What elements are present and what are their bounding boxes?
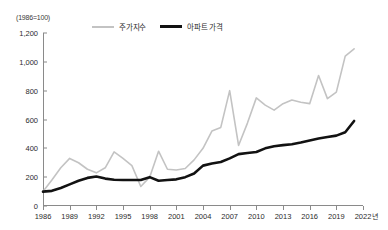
y-tick-label: 0 [0, 202, 43, 211]
x-tick-mark [70, 206, 71, 210]
x-tick-label: 1992 [88, 212, 105, 221]
x-tick-label: 2001 [168, 212, 185, 221]
y-tick-label: 800 [0, 86, 43, 95]
x-tick-mark [203, 206, 204, 210]
x-tick-label: 2013 [275, 212, 292, 221]
x-tick-mark [256, 206, 257, 210]
x-tick-mark [310, 206, 311, 210]
legend-line-swatch-gray-icon [92, 26, 114, 28]
x-tick-label: 1989 [61, 212, 78, 221]
x-tick-label: 2010 [248, 212, 265, 221]
x-tick-mark [123, 206, 124, 210]
legend-item-apartment-price: 아파트 가격 [160, 21, 223, 32]
x-axis-unit-label: 년 [372, 211, 378, 221]
chart-legend: 주가지수 아파트 가격 [92, 21, 223, 32]
x-tick-label: 1986 [35, 212, 52, 221]
plot-area [43, 33, 363, 206]
y-tick-mark [43, 119, 47, 120]
y-tick-mark [43, 61, 47, 62]
x-tick-mark [43, 206, 44, 210]
y-tick-label: 400 [0, 144, 43, 153]
y-tick-label: 1,000 [0, 57, 43, 66]
y-tick-label: 200 [0, 173, 43, 182]
chart-figure: (1986=100) 주가지수 아파트 가격 02004006008001,00… [0, 0, 388, 230]
x-tick-mark [336, 206, 337, 210]
x-tick-mark [176, 206, 177, 210]
y-tick-mark [43, 177, 47, 178]
legend-line-swatch-black-icon [160, 25, 182, 28]
unit-note: (1986=100) [16, 14, 50, 21]
x-tick-mark [150, 206, 151, 210]
x-tick-label: 2007 [221, 212, 238, 221]
x-tick-label: 2022 [355, 212, 372, 221]
y-tick-mark [43, 90, 47, 91]
x-tick-mark [230, 206, 231, 210]
x-tick-label: 2016 [301, 212, 318, 221]
x-tick-label: 1995 [115, 212, 132, 221]
x-tick-mark [96, 206, 97, 210]
x-tick-label: 1998 [141, 212, 158, 221]
y-tick-label: 600 [0, 115, 43, 124]
y-tick-mark [43, 148, 47, 149]
x-tick-mark [363, 206, 364, 210]
y-tick-mark [43, 33, 47, 34]
legend-label-stock-index: 주가지수 [119, 21, 146, 32]
x-tick-label: 2004 [195, 212, 212, 221]
x-tick-label: 2019 [328, 212, 345, 221]
legend-item-stock-index: 주가지수 [92, 21, 146, 32]
legend-label-apartment-price: 아파트 가격 [187, 21, 223, 32]
y-tick-label: 1,200 [0, 29, 43, 38]
x-tick-mark [283, 206, 284, 210]
series-line-apartment-price [43, 33, 363, 206]
